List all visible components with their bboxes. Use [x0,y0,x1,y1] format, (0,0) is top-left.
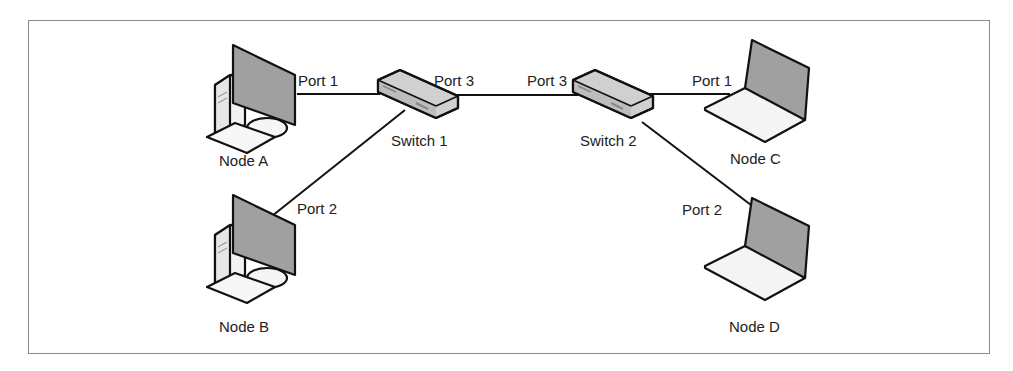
label-node-a: Node A [219,152,268,169]
switch-icon-switch-2 [573,70,653,118]
cables [272,94,751,216]
desktop-icon-node-a [207,45,295,153]
label-node-b: Node B [219,318,269,335]
label-switch-2: Switch 2 [580,132,637,149]
label-port-3-switch-1: Port 3 [434,72,474,89]
label-node-c: Node C [730,150,781,167]
label-port-3-switch-2: Port 3 [527,72,567,89]
label-port-2-node-b: Port 2 [297,200,337,217]
label-node-d: Node D [729,318,780,335]
label-switch-1: Switch 1 [391,132,448,149]
label-port-2-node-d: Port 2 [682,201,722,218]
desktop-icon-node-b [207,195,295,303]
cable-node-b-switch-1 [272,110,405,216]
network-diagram: Port 1 Port 2 Port 3 Port 3 Port 1 Port … [0,0,1013,371]
label-port-1-node-a: Port 1 [298,72,338,89]
label-port-1-node-c: Port 1 [692,72,732,89]
laptop-icon-node-c [705,40,809,142]
